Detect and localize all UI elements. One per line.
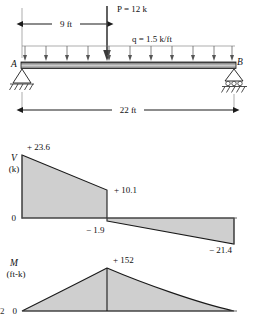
load-arrow [128,46,132,61]
dimension-9ft-label: 9 ft [60,19,73,29]
dimension-9ft: 9 ft [23,18,107,30]
shear-label-right-end: − 21.4 [209,245,233,255]
support-b-roller [222,69,248,93]
beam-loading-diagram: 9 ft P = 12 k q = 1.5 k/ft [10,4,248,116]
pin-triangle [13,69,31,83]
shear-zero-label: 0 [12,213,17,223]
load-arrow [212,46,216,61]
ground-hatching [10,84,34,90]
support-b-label: B [237,57,243,67]
moment-axis-units: (ft-k) [7,269,26,279]
load-arrow [86,46,90,61]
load-arrow [230,46,234,61]
roller-triangle [225,69,243,81]
shear-axis-units: (k) [9,164,20,174]
moment-axis-symbol: M [9,258,19,268]
moment-label-peak: + 152 [113,255,134,265]
dimension-22ft: 22 ft [22,92,234,116]
moment-area [22,268,234,311]
support-a-pin [10,69,35,90]
point-load-arrow [103,6,111,61]
page-artifact-number: 2 [0,306,5,316]
support-a-label: A [10,59,17,69]
ground-hatching [222,87,246,93]
shear-label-after-drop: − 1.9 [86,225,105,235]
distributed-load-arrows [23,46,234,61]
shear-label-left-peak: + 23.6 [27,142,51,152]
beam-diagram-svg: 9 ft P = 12 k q = 1.5 k/ft [0,0,255,320]
roller-wheels [226,81,242,85]
shear-negative-area [107,218,234,244]
point-load-label: P = 12 k [117,4,147,14]
figure-root: 9 ft P = 12 k q = 1.5 k/ft [0,0,255,320]
load-arrow [65,46,69,61]
shear-axis-symbol: V [11,153,18,163]
distributed-load-label: q = 1.5 k/ft [132,34,173,44]
load-arrow [44,46,48,61]
load-arrow [191,46,195,61]
shear-label-before-drop: + 10.1 [114,185,137,195]
beam-member [21,62,236,69]
shear-diagram: V (k) 0 + 23.6 + 10.1 − 1.9 − 21.4 [9,142,237,255]
load-arrow [170,46,174,61]
load-arrow [149,46,153,61]
shear-positive-area [22,155,107,218]
dimension-22ft-label: 22 ft [120,105,137,115]
moment-diagram: M (ft-k) 0 + 152 [7,255,238,316]
load-arrow [23,46,27,61]
moment-zero-label: 0 [13,306,18,316]
